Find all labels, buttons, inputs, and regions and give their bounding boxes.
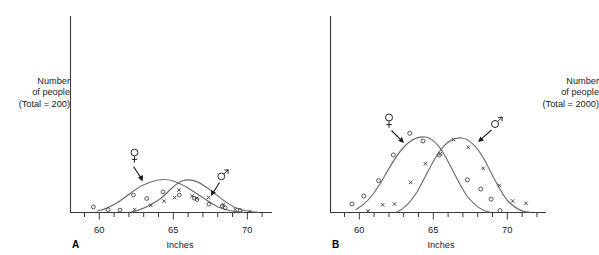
panel-b-x-ticks bbox=[345, 213, 537, 220]
panel-a-xtick-60: 60 bbox=[94, 224, 104, 235]
panel-a-y-axis-label: Number of people (Total = 200) bbox=[6, 76, 70, 110]
panel-b-xtick-65: 65 bbox=[428, 224, 438, 235]
panel-a-male-points bbox=[133, 188, 252, 213]
panel-b-x-axis-label: Inches bbox=[427, 240, 454, 250]
panel-a-y-axis-label-line3: (Total = 200) bbox=[6, 99, 70, 110]
panel-b: Number of people (Total = 2000) bbox=[273, 0, 547, 255]
panel-b-female-arrow bbox=[392, 131, 404, 143]
panel-a-xtick-70: 70 bbox=[242, 224, 252, 235]
panel-a-x-axis-label: Inches bbox=[166, 240, 193, 250]
panel-a-axes bbox=[71, 16, 273, 213]
panel-a-x-ticks bbox=[85, 213, 263, 220]
panel-a-plot: 60 65 70 Inches A bbox=[0, 0, 274, 255]
panel-b-letter: B bbox=[332, 239, 339, 250]
panel-a-female-symbol bbox=[131, 149, 138, 162]
panel-b-female-points bbox=[350, 131, 502, 212]
panel-a-y-axis-label-line1: Number bbox=[6, 76, 70, 87]
panel-b-male-symbol bbox=[492, 117, 503, 127]
panel-b-male-points bbox=[366, 138, 528, 213]
panel-b-plot: 60 65 70 Inches B bbox=[273, 0, 547, 255]
panel-b-xtick-60: 60 bbox=[354, 224, 364, 235]
panel-b-male-arrow bbox=[478, 130, 492, 142]
panel-b-female-symbol bbox=[386, 114, 393, 128]
panel-b-y-axis-label-line3: (Total = 2000) bbox=[535, 99, 599, 110]
panel-b-male-curve bbox=[397, 138, 530, 212]
panel-a-female-curve bbox=[97, 179, 244, 212]
panel-a: Number of people (Total = 200) bbox=[0, 0, 274, 255]
panel-b-female-curve bbox=[356, 137, 490, 212]
panel-b-xtick-70: 70 bbox=[502, 224, 512, 235]
panel-b-y-axis-label: Number of people (Total = 2000) bbox=[535, 76, 599, 110]
panel-a-y-axis-label-line2: of people bbox=[6, 87, 70, 98]
panel-b-axes bbox=[331, 16, 547, 213]
panel-b-y-axis-label-line1: Number bbox=[535, 76, 599, 87]
panel-a-male-symbol bbox=[218, 170, 228, 180]
panel-a-female-arrow bbox=[134, 167, 144, 182]
panel-a-xtick-65: 65 bbox=[168, 224, 178, 235]
panel-a-letter: A bbox=[72, 239, 79, 250]
panel-b-y-axis-label-line2: of people bbox=[535, 87, 599, 98]
